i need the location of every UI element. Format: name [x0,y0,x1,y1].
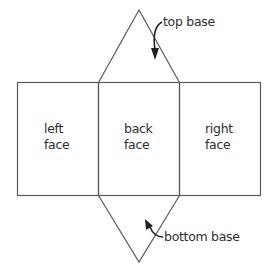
back-face-label: back face [124,121,153,153]
bottom-base-arrowhead-icon [145,219,153,230]
right-face-label-line1: right [205,121,233,137]
right-face-label-line2: face [205,137,233,153]
left-face-label: left face [44,121,69,153]
top-base-label: top base [163,14,215,30]
bottom-base-label: bottom base [164,229,240,245]
top-base-arrowhead-icon [151,48,159,60]
bottom-base-arrow [150,227,163,237]
left-face-label-line2: face [44,137,69,153]
back-face-label-line1: back [124,121,153,137]
right-face-label: right face [205,121,233,153]
back-face-label-line2: face [124,137,153,153]
prism-net-diagram: left face back face right face top base … [0,0,271,271]
left-face-label-line1: left [44,121,69,137]
top-base-arrow [154,22,162,50]
